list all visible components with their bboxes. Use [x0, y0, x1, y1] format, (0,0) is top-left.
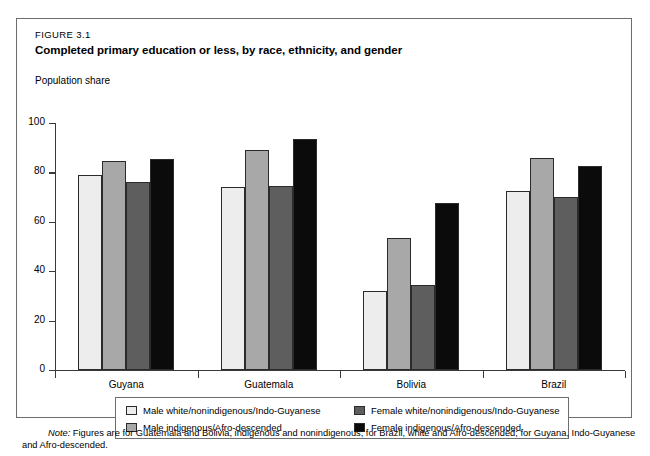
- x-axis-tick: [340, 371, 341, 378]
- bar: [506, 191, 530, 370]
- legend-swatch-icon: [126, 406, 137, 415]
- y-axis-tick: 60: [49, 222, 55, 223]
- y-axis-line: [55, 123, 56, 370]
- legend-label: Male white/nonindigenous/Indo-Guyanese: [143, 405, 320, 416]
- legend-item: Male white/nonindigenous/Indo-Guyanese: [126, 405, 320, 416]
- note-label: Note:: [48, 428, 70, 438]
- x-axis-tick: [198, 371, 199, 378]
- y-axis-tick: 100: [49, 123, 55, 124]
- bar: [554, 197, 578, 370]
- x-axis-tick: [483, 371, 484, 378]
- y-axis-tick-label: 80: [34, 165, 45, 176]
- y-axis-tick: 80: [49, 172, 55, 173]
- bar: [126, 182, 150, 370]
- figure-title: Completed primary education or less, by …: [35, 44, 402, 56]
- y-axis-tick: 20: [49, 321, 55, 322]
- bar: [150, 159, 174, 370]
- plot-area: 020406080100 GuyanaGuatemalaBoliviaBrazi…: [55, 105, 625, 373]
- bar: [578, 166, 602, 370]
- y-axis-tick-label: 60: [34, 215, 45, 226]
- bar: [269, 186, 293, 370]
- y-axis-tick-label: 40: [34, 264, 45, 275]
- figure-number: FIGURE 3.1: [35, 29, 91, 40]
- figure-container: FIGURE 3.1 Completed primary education o…: [0, 0, 650, 456]
- bar: [78, 175, 102, 370]
- y-axis-tick-label: 0: [39, 363, 45, 374]
- figure-note: Note: Figures are for Guatemala and Boli…: [22, 428, 636, 451]
- y-axis-title: Population share: [35, 75, 110, 86]
- x-axis-category-label: Guyana: [109, 379, 144, 390]
- legend-swatch-icon: [354, 406, 365, 415]
- bar: [221, 187, 245, 370]
- x-axis-tick: [625, 371, 626, 378]
- bar: [102, 161, 126, 370]
- figure-frame: FIGURE 3.1 Completed primary education o…: [16, 18, 632, 418]
- x-axis-category-label: Bolivia: [397, 379, 426, 390]
- bar: [411, 285, 435, 370]
- legend-label: Female white/nonindigenous/Indo-Guyanese: [371, 405, 560, 416]
- bar: [293, 139, 317, 370]
- x-axis-tick: [55, 371, 56, 378]
- bar: [530, 158, 554, 370]
- x-axis-category-label: Guatemala: [244, 379, 293, 390]
- y-axis-tick: 40: [49, 271, 55, 272]
- bar: [387, 238, 411, 370]
- legend-item: Female white/nonindigenous/Indo-Guyanese: [354, 405, 560, 416]
- y-axis-tick-label: 20: [34, 314, 45, 325]
- y-axis-tick-label: 100: [28, 116, 45, 127]
- bar: [435, 203, 459, 370]
- note-text: Figures are for Guatemala and Bolivia, i…: [22, 428, 635, 450]
- bar: [363, 291, 387, 370]
- x-axis-category-label: Brazil: [541, 379, 566, 390]
- bar: [245, 150, 269, 370]
